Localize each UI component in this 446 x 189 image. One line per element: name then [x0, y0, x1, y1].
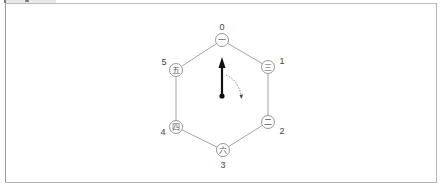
node-glyph: 一	[218, 36, 226, 45]
pointer-arrow	[219, 57, 226, 99]
pointer-arrowhead-icon	[219, 57, 226, 68]
node-index-label: 0	[219, 22, 224, 32]
hexagon-node-1: 三1	[262, 56, 285, 74]
node-index-label: 2	[279, 126, 284, 136]
hexagon-node-5: 五5	[161, 57, 182, 77]
hexagon-node-0: 一0	[216, 22, 229, 47]
node-glyph: 五	[172, 66, 180, 75]
node-glyph: 三	[264, 63, 272, 72]
node-glyph: 六	[219, 145, 227, 155]
hexagon-edge	[182, 130, 217, 147]
pointer-pivot-icon	[219, 93, 224, 98]
node-index-label: 3	[220, 160, 225, 170]
node-glyph: 四	[172, 123, 180, 132]
rotation-dotted-arc	[226, 75, 241, 95]
node-index-label: 1	[279, 56, 284, 66]
hexagon-diagram: 一0三1二2六3四4五5	[0, 0, 446, 189]
node-index-label: 4	[160, 127, 165, 137]
hexagon-node-2: 二2	[262, 116, 285, 137]
hexagon-node-4: 四4	[160, 121, 182, 138]
rotation-hint	[226, 75, 243, 99]
rotation-arrowhead-icon	[240, 95, 244, 100]
node-glyph: 二	[264, 118, 272, 127]
hexagon-edge	[229, 125, 263, 146]
node-index-label: 5	[161, 57, 166, 67]
hexagon-node-3: 六3	[217, 144, 230, 171]
hexagon-edge	[181, 44, 216, 67]
hexagon-edge	[228, 43, 263, 63]
